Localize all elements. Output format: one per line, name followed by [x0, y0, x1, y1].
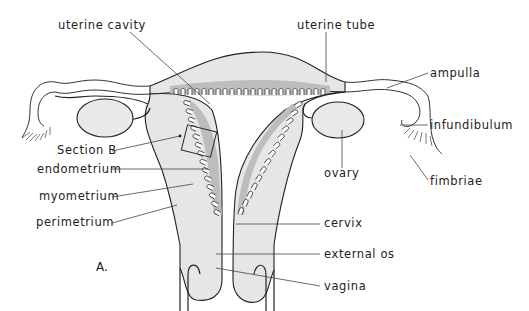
label-vagina: vagina	[324, 279, 366, 293]
endometrial-gland	[279, 89, 283, 96]
left-ovary	[77, 99, 133, 137]
endometrial-gland	[314, 89, 318, 96]
right-fimbriae	[404, 128, 432, 146]
uterus-anatomy-diagram: uterine cavity uterine tube ampulla infu…	[0, 0, 529, 311]
endometrial-gland	[188, 89, 192, 96]
endometrial-gland	[251, 89, 255, 96]
leader-perimetrium	[112, 205, 177, 223]
endometrial-gland	[181, 89, 185, 96]
label-endometrium: endometrium	[37, 162, 122, 176]
endometrial-gland	[230, 89, 234, 96]
endometrial-gland	[300, 89, 304, 96]
endometrial-gland	[237, 89, 241, 96]
label-fimbriae: fimbriae	[430, 174, 483, 188]
label-ovary: ovary	[324, 166, 359, 180]
label-panel-a: A.	[96, 260, 108, 274]
label-uterine-tube: uterine tube	[297, 18, 375, 32]
endometrial-gland	[209, 89, 213, 96]
endometrial-gland	[265, 89, 269, 96]
label-section-b: Section B	[57, 143, 117, 157]
label-external-os: external os	[324, 247, 395, 261]
endometrial-gland	[244, 89, 248, 96]
label-myometrium: myometrium	[39, 189, 119, 203]
label-perimetrium: perimetrium	[36, 215, 114, 229]
endometrial-gland	[216, 89, 220, 96]
endometrial-gland	[307, 89, 311, 96]
label-uterine-cavity: uterine cavity	[58, 18, 146, 32]
right-ovary	[312, 102, 364, 138]
section-b-pointer-dot	[179, 135, 182, 138]
endometrial-gland	[258, 89, 262, 96]
endometrial-gland	[286, 89, 290, 96]
label-infundibulum: infundibulum	[430, 118, 513, 132]
label-ampulla: ampulla	[430, 66, 480, 80]
label-cervix: cervix	[324, 216, 363, 230]
leader-fimbriae	[410, 155, 428, 180]
endometrial-gland	[272, 89, 276, 96]
endometrial-gland	[321, 89, 325, 96]
endometrial-gland	[202, 89, 206, 96]
endometrial-gland	[223, 89, 227, 96]
endometrial-gland	[293, 89, 297, 96]
